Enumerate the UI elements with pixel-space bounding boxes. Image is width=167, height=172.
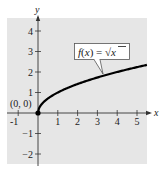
x-axis-label: x [153,107,159,118]
y-tick-label: −1 [22,128,33,139]
y-axis-label: y [34,4,40,15]
x-tick-label: 3 [95,116,100,127]
chart-container: -1123454321−1−2 (0, 0) x y f(x) = √x [0,0,167,172]
y-tick-label: −2 [22,149,33,160]
x-axis-arrow-icon [146,111,152,115]
x-tick-label: -1 [10,116,18,127]
x-tick-label: 2 [75,116,80,127]
y-tick-label: 2 [28,67,33,78]
y-tick-label: 4 [28,26,33,37]
origin-point [35,110,40,115]
function-label: f(x) = √x [78,46,116,59]
x-tick-label: 5 [135,116,140,127]
y-tick-label: 3 [28,46,33,57]
y-tick-label: 1 [28,87,33,98]
x-tick-label: 4 [115,116,120,127]
x-tick-label: 1 [55,116,60,127]
origin-label: (0, 0) [10,98,32,110]
sqrt-function-plot: -1123454321−1−2 (0, 0) x y f(x) = √x [0,0,167,172]
